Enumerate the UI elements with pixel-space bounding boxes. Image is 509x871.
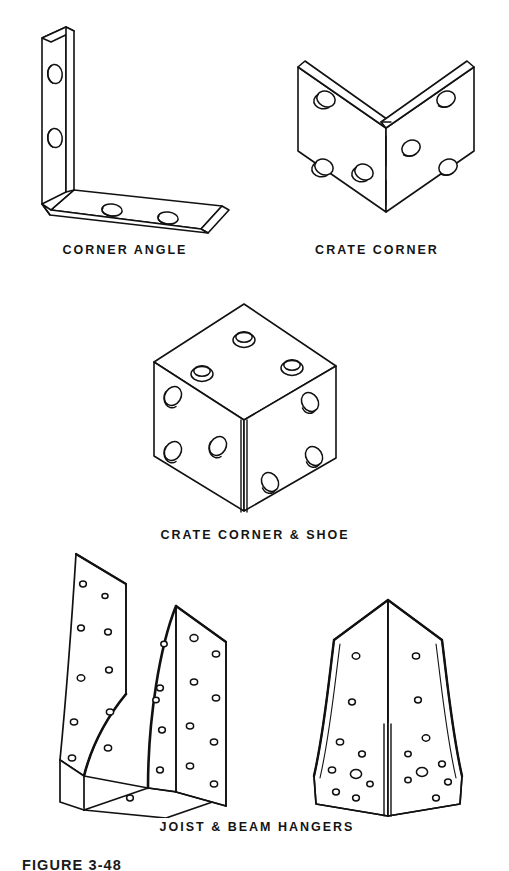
caption-crate-corner: CRATE CORNER (262, 244, 492, 257)
crate-corner-shoe-drawing (140, 296, 370, 521)
crate-corner-drawing (286, 50, 486, 235)
caption-corner-angle: CORNER ANGLE (10, 244, 240, 257)
figure-sheet: CORNER ANGLE (0, 0, 509, 871)
figure-number-label: FIGURE 3-48 (22, 858, 122, 871)
corner-angle-drawing (18, 14, 248, 239)
caption-crate-corner-shoe: CRATE CORNER & SHOE (100, 529, 410, 542)
caption-joist-beam-hangers: JOIST & BEAM HANGERS (92, 821, 422, 834)
joist-hanger-left-drawing (48, 548, 288, 818)
beam-hanger-right-drawing (296, 592, 476, 822)
